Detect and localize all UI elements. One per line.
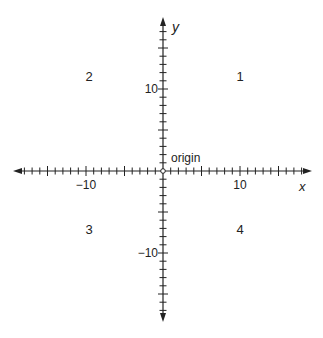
- x-tick-label-neg10: −10: [76, 178, 97, 192]
- origin-label: origin: [171, 151, 200, 165]
- coordinate-plane: y x 10 −10 10 −10 origin 1 2 3 4: [0, 0, 323, 338]
- x-axis-left-arrow-icon: [13, 168, 22, 174]
- y-tick-label-10: 10: [145, 82, 159, 96]
- x-axis-label: x: [298, 179, 306, 194]
- y-axis-down-arrow-icon: [160, 313, 166, 322]
- quadrant-3-label: 3: [85, 222, 92, 237]
- quadrant-4-label: 4: [236, 222, 243, 237]
- y-tick-label-neg10: −10: [138, 246, 159, 260]
- x-axis-right-arrow-icon: [303, 168, 312, 174]
- y-axis-up-arrow-icon: [160, 17, 166, 26]
- origin-point: [161, 169, 166, 174]
- quadrant-1-label: 1: [236, 69, 243, 84]
- quadrant-2-label: 2: [85, 69, 92, 84]
- x-tick-label-10: 10: [233, 178, 247, 192]
- y-axis-label: y: [171, 19, 180, 35]
